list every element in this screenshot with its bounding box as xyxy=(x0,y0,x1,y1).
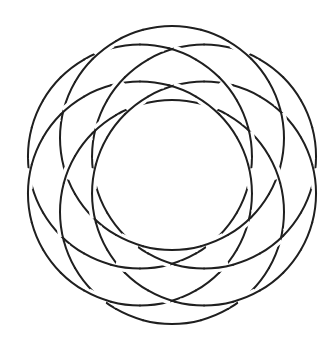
knot-svg xyxy=(0,0,336,346)
knot-diagram xyxy=(0,0,336,346)
